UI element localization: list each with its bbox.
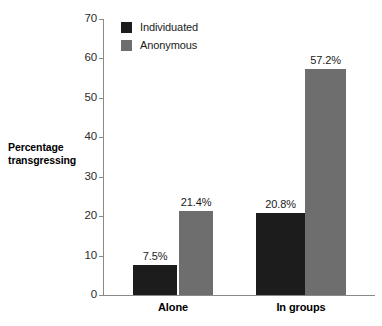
y-axis-tick-label: 0	[0, 288, 97, 300]
y-axis-tick-label: 70	[0, 12, 97, 24]
y-axis-title-line-1: Percentage	[8, 141, 96, 154]
y-axis-tick	[99, 256, 103, 257]
bar-chart: Percentage transgressing 010203040506070…	[0, 0, 382, 326]
bar-in-groups-anonymous	[305, 69, 346, 295]
bar-value-label: 21.4%	[167, 196, 225, 208]
bar-alone-individuated	[133, 265, 177, 295]
legend-swatch-icon	[121, 40, 132, 51]
bar-alone-anonymous	[179, 211, 213, 295]
y-axis-tick	[99, 216, 103, 217]
bar-value-label: 57.2%	[293, 54, 358, 66]
y-axis-tick-label: 50	[0, 91, 97, 103]
y-axis-tick-label: 30	[0, 170, 97, 182]
legend-item-anonymous: Anonymous	[121, 37, 198, 53]
y-axis-tick	[99, 295, 103, 296]
legend-label: Anonymous	[140, 39, 197, 51]
y-axis-tick	[99, 19, 103, 20]
y-axis-tick	[99, 58, 103, 59]
category-label-alone: Alone	[113, 301, 233, 313]
y-axis-tick-label: 20	[0, 209, 97, 221]
y-axis-tick	[99, 177, 103, 178]
y-axis-tick-label: 40	[0, 130, 97, 142]
y-axis-tick-label: 60	[0, 51, 97, 63]
bar-in-groups-individuated	[256, 213, 305, 295]
y-axis-title: Percentage transgressing	[8, 141, 96, 167]
y-axis-title-line-2: transgressing	[8, 154, 96, 167]
legend-item-individuated: Individuated	[121, 19, 198, 35]
y-axis-tick	[99, 137, 103, 138]
y-axis-line	[103, 19, 104, 296]
y-axis-tick	[99, 98, 103, 99]
legend-swatch-icon	[121, 22, 132, 33]
category-label-in-groups: In groups	[236, 301, 366, 313]
chart-legend: IndividuatedAnonymous	[121, 19, 198, 55]
legend-label: Individuated	[140, 21, 198, 33]
y-axis-tick-label: 10	[0, 249, 97, 261]
x-axis-line	[104, 295, 375, 296]
